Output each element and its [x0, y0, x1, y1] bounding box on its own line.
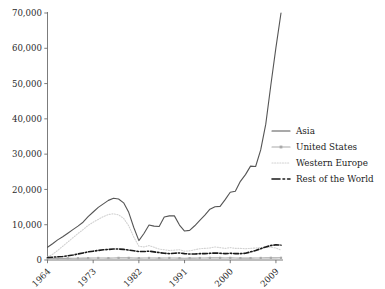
series-line-rest-of-the-world	[48, 245, 282, 258]
chart-legend: AsiaUnited StatesWestern EuropeRest of t…	[272, 126, 374, 184]
series-marker	[77, 257, 79, 259]
y-tick-label: 40,000	[12, 114, 42, 124]
series-line-asia	[48, 13, 282, 247]
series-marker	[189, 257, 191, 259]
y-tick-label: 60,000	[12, 43, 42, 53]
x-tick-label: 1991	[167, 266, 190, 289]
series-layer	[46, 13, 282, 260]
series-marker	[107, 257, 109, 259]
series-marker	[148, 257, 150, 259]
series-marker	[117, 257, 119, 259]
legend-label: Asia	[295, 126, 315, 136]
legend-label: Western Europe	[296, 158, 368, 168]
series-marker	[219, 257, 221, 259]
series-marker	[57, 257, 59, 259]
y-tick-label: 30,000	[12, 149, 42, 159]
x-tick-label: 2009	[258, 266, 281, 289]
series-marker	[280, 257, 282, 259]
series-marker	[138, 257, 140, 259]
x-axis: 196419731982199120002009	[30, 260, 283, 289]
x-tick-label: 1982	[121, 266, 144, 289]
series-marker	[97, 257, 99, 259]
series-marker	[158, 257, 160, 259]
series-marker	[128, 257, 130, 259]
series-marker	[209, 257, 211, 259]
y-tick-label: 50,000	[12, 79, 42, 89]
series-line-western-europe	[48, 214, 282, 257]
x-tick-label: 1964	[30, 266, 53, 289]
y-tick-label: 70,000	[12, 8, 42, 18]
series-marker	[239, 257, 241, 259]
series-marker	[229, 257, 231, 259]
y-tick-label: 10,000	[12, 220, 42, 230]
legend-label: Rest of the World	[296, 174, 374, 184]
series-line-united-states	[48, 258, 282, 259]
series-marker	[199, 257, 201, 259]
y-axis: 010,00020,00030,00040,00050,00060,00070,…	[12, 8, 48, 265]
legend-label: United States	[296, 142, 358, 152]
series-marker	[270, 257, 272, 259]
y-tick-label: 0	[37, 255, 42, 265]
series-marker	[260, 257, 262, 259]
chart-canvas: 010,00020,00030,00040,00050,00060,00070,…	[0, 0, 385, 289]
series-marker	[67, 257, 69, 259]
x-tick-label: 2000	[213, 266, 236, 289]
x-tick-label: 1973	[76, 266, 99, 289]
series-marker	[168, 257, 170, 259]
series-marker	[87, 257, 89, 259]
legend-marker	[280, 146, 283, 149]
y-tick-label: 20,000	[12, 185, 42, 195]
series-marker	[178, 257, 180, 259]
series-marker	[249, 257, 251, 259]
line-chart-figure: 010,00020,00030,00040,00050,00060,00070,…	[0, 0, 385, 289]
